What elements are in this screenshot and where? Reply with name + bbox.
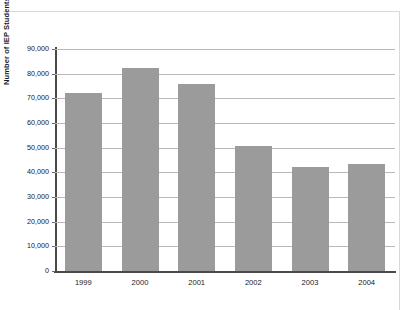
x-axis-tick-label: 2004 [339, 278, 395, 287]
y-axis-tick [52, 74, 55, 75]
y-axis-tick [52, 98, 55, 99]
y-axis-tick-label: 30,000 [5, 193, 49, 201]
bar [292, 167, 329, 271]
y-axis-tick [52, 148, 55, 149]
x-axis-tick-label: 2002 [225, 278, 281, 287]
y-axis-tick-label: 90,000 [5, 45, 49, 53]
bar [122, 68, 159, 272]
y-axis-tick [52, 271, 55, 272]
y-axis-tick-label: 80,000 [5, 70, 49, 78]
x-axis-line [54, 271, 396, 273]
y-axis-tick-label: 20,000 [5, 218, 49, 226]
x-axis-tick-label: 2003 [282, 278, 338, 287]
y-axis-tick-label: 50,000 [5, 144, 49, 152]
y-axis-tick [52, 222, 55, 223]
y-axis-line [55, 47, 57, 273]
gridline [55, 98, 395, 99]
y-axis-tick [52, 49, 55, 50]
x-axis-tick-label: 1999 [55, 278, 111, 287]
y-axis-tick-label: 0 [5, 267, 49, 275]
bar [348, 164, 385, 271]
bar [235, 146, 272, 271]
y-axis-tick-label: 40,000 [5, 168, 49, 176]
x-axis-tick-label: 2000 [112, 278, 168, 287]
y-axis-tick-label: 10,000 [5, 242, 49, 250]
y-axis-tick-label: 70,000 [5, 94, 49, 102]
y-axis-tick-label: 60,000 [5, 119, 49, 127]
x-axis-tick-label: 2001 [169, 278, 225, 287]
y-axis-tick [52, 197, 55, 198]
bar [65, 93, 102, 271]
gridline [55, 197, 395, 198]
gridline [55, 172, 395, 173]
bar-chart: Number of IEP Students 010,00020,00030,0… [0, 0, 419, 310]
gridline [55, 49, 395, 50]
gridline [55, 246, 395, 247]
gridline [55, 222, 395, 223]
bar [178, 84, 215, 271]
y-axis-tick [52, 123, 55, 124]
gridline [55, 74, 395, 75]
y-axis-title: Number of IEP Students [0, 0, 14, 106]
y-axis-tick [52, 246, 55, 247]
gridline [55, 148, 395, 149]
gridline [55, 123, 395, 124]
y-axis-tick [52, 172, 55, 173]
